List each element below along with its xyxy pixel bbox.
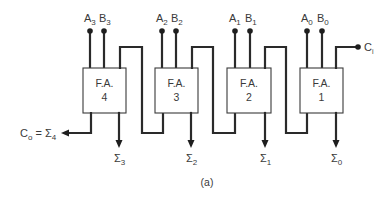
label-b3: B3 [99,12,111,27]
full-adder-3: A2 B2 F.A. 3 Σ2 [155,12,198,167]
label-a3: A3 [84,12,96,27]
fa1-label-line1: F.A. [312,77,330,89]
full-adder-2: A1 B1 F.A. 2 Σ1 [227,12,272,167]
input-b2-terminal [173,28,179,34]
input-a3-terminal [87,28,93,34]
carry-out-wire [68,113,91,133]
full-adder-1: A0 B0 F.A. 1 Σ0 Ci [300,12,374,167]
sum2-arrow-icon [188,140,195,148]
carry-out-arrow-icon [61,130,69,137]
fa3-label-line1: F.A. [167,77,185,89]
input-a1-terminal [232,28,238,34]
label-sum0: Σ0 [331,152,343,167]
full-adder-4: A3 B3 F.A. 4 Σ3 Co = Σ4 [20,12,126,167]
input-b3-terminal [101,28,107,34]
label-b2: B2 [171,12,183,27]
label-sum2: Σ2 [186,152,198,167]
fa2-label-line2: 2 [246,91,252,103]
figure-caption: (a) [201,176,214,188]
label-sum3: Σ3 [114,152,126,167]
sum1-arrow-icon [262,140,269,148]
input-a0-terminal [304,28,310,34]
label-a1: A1 [229,12,241,27]
ripple-carry-adder-diagram: A3 B3 F.A. 4 Σ3 Co = Σ4 A2 B2 F.A. 3 Σ2 [0,0,391,198]
label-b0: B0 [317,12,329,27]
label-carry-in: Ci [364,41,374,55]
label-a2: A2 [156,12,168,27]
carry-in-wire [336,47,357,68]
sum0-arrow-icon [333,140,340,148]
fa4-label-line2: 4 [102,91,108,103]
label-b1: B1 [245,12,257,27]
input-a2-terminal [159,28,165,34]
carry-in-terminal [355,44,361,50]
label-a0: A0 [301,12,313,27]
fa4-label-line1: F.A. [95,77,113,89]
fa2-label-line1: F.A. [240,77,258,89]
fa1-label-line2: 1 [319,91,325,103]
sum3-arrow-icon [116,140,123,148]
input-b0-terminal [319,28,325,34]
label-carry-out: Co = Σ4 [20,127,57,142]
label-sum1: Σ1 [260,152,272,167]
input-b1-terminal [247,28,253,34]
fa3-label-line2: 3 [174,91,180,103]
